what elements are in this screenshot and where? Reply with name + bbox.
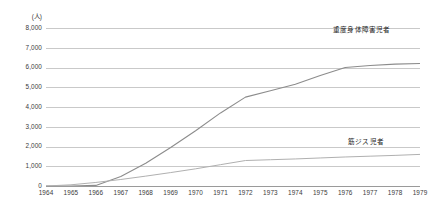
series-lines	[46, 28, 420, 186]
y-axis-tick-label: 4,000	[0, 104, 42, 110]
x-axis-tick-label: 1979	[413, 190, 428, 196]
y-axis-tick-label: 0	[0, 183, 42, 189]
y-axis-tick-label: 3,000	[0, 124, 42, 130]
x-axis-tick-label: 1965	[64, 190, 79, 196]
series-label-severe-disability: 重度身体障害児者	[333, 27, 391, 34]
y-axis-tick-label: 6,000	[0, 64, 42, 70]
x-axis-tick-label: 1970	[188, 190, 203, 196]
y-axis-tick-labels: 8,0007,0006,0005,0004,0003,0002,0001,000…	[0, 28, 42, 186]
x-axis-tick-label: 1971	[213, 190, 228, 196]
series-line-severe-disability	[46, 64, 420, 186]
y-axis-tick-label: 5,000	[0, 84, 42, 90]
x-axis-tick-label: 1973	[263, 190, 278, 196]
x-axis-tick-labels: 1964196519661967196819691970197119721973…	[46, 190, 420, 204]
x-axis-tick-label: 1977	[363, 190, 378, 196]
x-axis-tick-label: 1969	[163, 190, 178, 196]
series-label-muscular-dystrophy: 筋ジス児者	[348, 139, 384, 146]
line-chart: (人) 8,0007,0006,0005,0004,0003,0002,0001…	[0, 0, 444, 209]
x-axis-tick-label: 1964	[39, 190, 54, 196]
x-axis-tick-label: 1975	[313, 190, 328, 196]
x-axis-tick-label: 1976	[338, 190, 353, 196]
y-axis-tick-label: 8,000	[0, 25, 42, 31]
y-axis-tick-label: 2,000	[0, 143, 42, 149]
x-axis-tick-label: 1968	[138, 190, 153, 196]
x-axis-tick-label: 1966	[89, 190, 104, 196]
x-axis-tick-label: 1978	[388, 190, 403, 196]
x-axis-tick-label: 1967	[113, 190, 128, 196]
x-axis-tick-label: 1972	[238, 190, 253, 196]
y-axis-unit-label: (人)	[0, 14, 42, 20]
y-axis-tick-label: 1,000	[0, 163, 42, 169]
gridline	[46, 186, 420, 187]
y-axis-tick-label: 7,000	[0, 45, 42, 51]
x-axis-tick-label: 1974	[288, 190, 303, 196]
series-line-muscular-dystrophy	[46, 154, 420, 186]
